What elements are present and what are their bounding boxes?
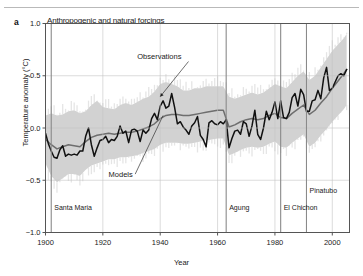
y-tick-label: 0.5 — [30, 71, 40, 80]
volcano-label-santa-maria: Santa Maria — [54, 204, 92, 211]
y-tick-label: 1.0 — [30, 19, 40, 28]
annotation-observations: Observations — [137, 52, 181, 61]
volcano-label-agung: Agung — [229, 204, 249, 212]
y-tick-label: −0.5 — [26, 176, 41, 185]
x-tick-label: 2000 — [324, 238, 341, 247]
x-tick-label: 1980 — [267, 238, 284, 247]
x-tick-label: 1960 — [209, 238, 226, 247]
volcano-label-el-chichon: El Chichon — [284, 204, 318, 211]
x-tick-label: 1940 — [152, 238, 169, 247]
x-tick-label: 1900 — [37, 238, 54, 247]
volcano-label-pinatubo: Pinatubo — [309, 187, 337, 194]
annotation-models: Models — [109, 170, 133, 179]
temperature-anomaly-chart: −1.0−0.50.00.51.019001920194019601980200… — [0, 0, 363, 276]
x-tick-label: 1920 — [95, 238, 112, 247]
y-tick-label: 0.0 — [30, 124, 40, 133]
y-tick-label: −1.0 — [26, 228, 41, 237]
